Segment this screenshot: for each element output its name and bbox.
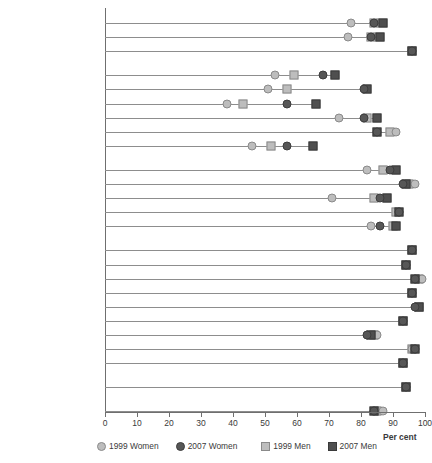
legend-circle-dark-icon [176,442,185,451]
row-connector-line [105,265,406,266]
plot-area: WorldLess developed regionsMore develope… [105,8,425,412]
marker-1999-men [267,141,276,150]
legend-item: 1999 Men [261,441,310,451]
marker-1999-men [289,71,298,80]
x-tick [361,412,362,417]
marker-2007-men [376,33,385,42]
marker-2007-women [363,331,372,340]
marker-2007-women [411,345,420,354]
legend-label: 2007 Men [340,441,377,451]
legend-item: 2007 Men [328,441,377,451]
marker-2007-women [360,85,369,94]
row-connector-line [105,75,335,76]
marker-2007-women [411,302,420,311]
marker-2007-women [369,19,378,28]
marker-1999-women [411,180,420,189]
x-tick [393,412,394,417]
row-connector-line [105,321,403,322]
row-connector-line [105,307,419,308]
marker-2007-women [411,274,420,283]
row-connector-line [105,23,383,24]
legend-label: 1999 Women [109,441,159,451]
row-connector-line [105,89,367,90]
x-axis-title: Per cent [383,432,417,442]
x-tick [169,412,170,417]
row-connector-line [105,146,313,147]
marker-2007-men [379,19,388,28]
x-tick [137,412,138,417]
marker-2007-women [401,383,410,392]
x-tick [105,412,106,417]
x-tick-label: 30 [196,418,205,428]
x-tick-label: 90 [388,418,397,428]
marker-2007-women [283,99,292,108]
marker-2007-women [398,316,407,325]
marker-1999-women [222,99,231,108]
marker-1999-women [248,141,257,150]
marker-1999-men [238,99,247,108]
marker-2007-women [408,288,417,297]
row-connector-line [105,293,412,294]
marker-1999-women [392,127,401,136]
x-tick-label: 100 [418,418,432,428]
marker-1999-women [366,222,375,231]
legend-square-light-icon [261,442,270,451]
x-tick [329,412,330,417]
marker-2007-women [360,113,369,122]
y-axis-line [105,8,106,412]
marker-1999-men [283,85,292,94]
marker-2007-women [401,260,410,269]
row-connector-line [105,279,422,280]
row-connector-line [105,212,399,213]
marker-2007-women [385,165,394,174]
marker-2007-men [309,141,318,150]
legend-label: 1999 Men [273,441,310,451]
x-tick-label: 0 [103,418,108,428]
x-tick-label: 10 [132,418,141,428]
x-tick-label: 20 [164,418,173,428]
x-tick-label: 40 [228,418,237,428]
x-tick-label: 50 [260,418,269,428]
marker-1999-women [270,71,279,80]
x-tick-label: 80 [356,418,365,428]
marker-2007-women [398,359,407,368]
x-tick [233,412,234,417]
marker-2007-women [318,71,327,80]
marker-1999-women [334,113,343,122]
marker-2007-men [312,99,321,108]
marker-2007-women [408,47,417,56]
marker-2007-women [376,194,385,203]
row-connector-line [105,363,403,364]
x-tick [425,412,426,417]
row-connector-line [105,387,406,388]
marker-2007-men [331,71,340,80]
marker-1999-women [347,19,356,28]
legend-item: 1999 Women [97,441,159,451]
row-connector-line [105,335,377,336]
marker-2007-women [283,141,292,150]
row-connector-line [105,184,415,185]
legend-label: 2007 Women [188,441,238,451]
row-connector-line [105,51,412,52]
legend-square-dark-icon [328,442,337,451]
x-tick-label: 70 [324,418,333,428]
chart-legend: 1999 Women2007 Women1999 Men2007 Men [97,441,377,451]
marker-2007-men [373,113,382,122]
legend-circle-light-icon [97,442,106,451]
marker-2007-men [392,222,401,231]
marker-2007-women [376,222,385,231]
marker-2007-women [408,246,417,255]
row-connector-line [105,250,412,251]
legend-item: 2007 Women [176,441,238,451]
x-tick [297,412,298,417]
marker-1999-women [344,33,353,42]
row-connector-line [105,37,380,38]
x-tick [201,412,202,417]
row-connector-line [105,349,415,350]
marker-1999-women [328,194,337,203]
row-connector-line [105,170,396,171]
marker-2007-women [366,33,375,42]
marker-2007-women [395,208,404,217]
marker-2007-women [373,127,382,136]
